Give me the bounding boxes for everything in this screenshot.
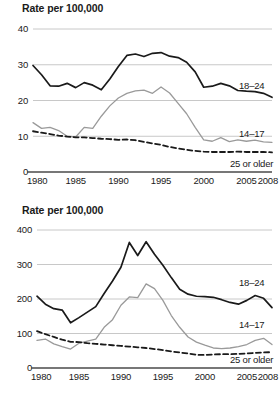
series-line-14-17 <box>37 284 272 349</box>
x-axis-tick-label: 1985 <box>66 175 86 186</box>
y-axis-tick-label: 300 <box>17 259 32 270</box>
x-axis-tick-label: 1980 <box>31 371 51 382</box>
chart-top-plot: 010203040198019851990199520002005200818–… <box>0 0 279 200</box>
series-label-s2: 14–17 <box>239 128 264 139</box>
series-label-s2: 14–17 <box>239 319 264 330</box>
x-axis-tick-label: 2005 <box>237 371 257 382</box>
x-axis-tick-label: 2008 <box>258 175 278 186</box>
x-axis-tick-label: 1980 <box>27 175 47 186</box>
chart-bottom: Rate per 100,000 01002003004001980198519… <box>0 200 279 418</box>
y-axis-tick-label: 20 <box>18 95 28 106</box>
series-line-25-or-older <box>33 131 272 152</box>
x-axis-tick-label: 2008 <box>258 371 278 382</box>
series-label-s1: 18–24 <box>239 277 264 288</box>
series-label-s3: 25 or older <box>230 354 273 365</box>
x-axis-tick-label: 1985 <box>69 371 89 382</box>
x-axis-tick-label: 2005 <box>236 175 256 186</box>
chart-top: Rate per 100,000 01020304019801985199019… <box>0 0 279 200</box>
y-axis-tick-label: 400 <box>17 224 32 235</box>
series-line-18-24 <box>37 242 272 323</box>
series-line-14-17 <box>33 87 272 142</box>
series-label-s3: 25 or older <box>230 158 273 169</box>
chart-page: Rate per 100,000 01020304019801985199019… <box>0 0 279 418</box>
x-axis-tick-label: 1995 <box>151 175 171 186</box>
series-line-25-or-older <box>37 331 272 355</box>
y-axis-tick-label: 200 <box>17 293 32 304</box>
x-axis-tick-label: 1995 <box>153 371 173 382</box>
series-label-s1: 18–24 <box>239 80 264 91</box>
series-line-18-24 <box>33 53 272 98</box>
y-axis-tick-label: 10 <box>18 131 28 142</box>
y-axis-tick-label: 40 <box>18 23 28 34</box>
x-axis-tick-label: 1990 <box>108 175 128 186</box>
x-axis-tick-label: 2000 <box>194 175 214 186</box>
y-axis-tick-label: 100 <box>17 328 32 339</box>
x-axis-tick-label: 1990 <box>111 371 131 382</box>
chart-bottom-plot: 0100200300400198019851990199520002005200… <box>0 200 279 418</box>
x-axis-tick-label: 2000 <box>195 371 215 382</box>
y-axis-tick-label: 30 <box>18 59 28 70</box>
